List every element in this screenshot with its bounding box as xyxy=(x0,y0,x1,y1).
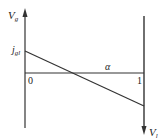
left-axis-label: Vg xyxy=(8,9,19,23)
right-axis-arrow-icon xyxy=(142,126,147,135)
left-axis-arrow-icon xyxy=(23,8,28,17)
drift-flux-line xyxy=(25,51,144,106)
right-axis-label: Vl xyxy=(149,126,158,139)
x-axis-label: α xyxy=(105,61,111,72)
intercept-label: jgl xyxy=(10,44,20,57)
origin-label: 0 xyxy=(28,75,33,86)
diagram-canvas: Vg jgl 0 α 1 Vl xyxy=(0,0,160,139)
x-end-label: 1 xyxy=(137,75,142,86)
